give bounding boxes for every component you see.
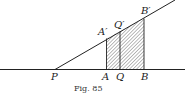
shaded-region <box>107 19 145 70</box>
label-Q-prime: Q′ <box>114 19 125 30</box>
label-P: P <box>50 71 58 82</box>
label-A: A <box>101 71 109 82</box>
label-A-prime: A′ <box>97 26 108 37</box>
figure-caption: Fig. 85 <box>74 84 103 93</box>
label-Q: Q <box>116 71 124 82</box>
figure-diagram: P A Q B A′ Q′ B′ Fig. 85 <box>0 0 191 97</box>
label-B: B <box>140 71 148 82</box>
label-B-prime: B′ <box>140 5 151 16</box>
